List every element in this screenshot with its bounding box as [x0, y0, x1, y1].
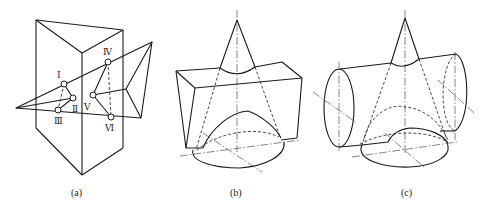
- cylinder-top-left: [340, 63, 391, 69]
- cone-base-ellipse: [193, 142, 284, 168]
- cone-hidden-right-c: [419, 59, 447, 140]
- label-v: Ⅴ: [83, 102, 91, 112]
- point-ii: [70, 95, 76, 101]
- point-i: [61, 81, 67, 87]
- caption-a: (a): [71, 187, 82, 199]
- point-iii: [55, 107, 61, 113]
- label-vi: Ⅵ: [104, 123, 114, 133]
- cylinder-right-end-visible: [455, 54, 467, 131]
- label-ii: Ⅱ: [72, 104, 78, 114]
- cone-hidden-left-c: [362, 63, 391, 145]
- hidden-intersection-lower: [360, 133, 448, 144]
- cylinder-top-right: [419, 54, 456, 59]
- point-v: [90, 92, 96, 98]
- cone-hidden-right: [255, 67, 280, 137]
- caption-c: (c): [401, 187, 412, 199]
- label-i: Ⅰ: [57, 70, 61, 80]
- prism-bottom-edges: [36, 128, 123, 175]
- figure-panels: Ⅰ Ⅱ Ⅲ Ⅳ Ⅴ Ⅵ (a) (b): [0, 0, 481, 212]
- panel-b-cone-block-diagram: (b): [176, 10, 302, 199]
- caption-b: (b): [230, 187, 242, 199]
- block-front-left-edge: [186, 88, 195, 148]
- label-iv: Ⅳ: [103, 47, 113, 57]
- block-top-back-left: [176, 68, 220, 71]
- left-end-diagonal-centerline: [313, 92, 357, 123]
- label-iii: Ⅲ: [54, 116, 63, 126]
- cone-block-intersection-top: [220, 67, 255, 74]
- hidden-arc: [197, 131, 279, 150]
- panel-a-prism-plane-diagram: Ⅰ Ⅱ Ⅲ Ⅳ Ⅴ Ⅵ (a): [16, 20, 152, 199]
- block-right-side: [281, 78, 302, 140]
- panel-c-cone-cylinder-diagram: (c): [313, 10, 474, 199]
- cone-base-ellipse-c: [361, 145, 448, 167]
- base-centerline-diagonal: [203, 133, 262, 172]
- cone-top-generatrices: [220, 20, 255, 68]
- cone-block-intersection-bottom: [203, 111, 281, 148]
- block-top-back-right: [255, 62, 302, 78]
- point-iv: [105, 59, 111, 65]
- point-vi: [108, 114, 114, 120]
- cylinder-right-end-hidden: [443, 54, 456, 131]
- hidden-intersection-upper: [364, 106, 448, 140]
